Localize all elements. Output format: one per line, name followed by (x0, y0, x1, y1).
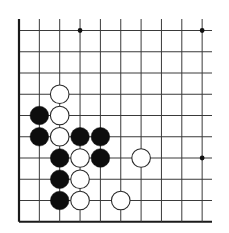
black-stone[interactable] (50, 149, 69, 168)
board-grid (19, 19, 212, 222)
black-stone[interactable] (91, 149, 110, 168)
stones-layer (30, 85, 150, 210)
black-stone[interactable] (91, 127, 110, 146)
white-stone[interactable] (132, 149, 151, 168)
go-board (0, 0, 229, 233)
white-stone[interactable] (71, 191, 90, 210)
black-stone[interactable] (50, 191, 69, 210)
go-board-diagram (0, 0, 229, 233)
black-stone[interactable] (71, 127, 90, 146)
star-point-icon (78, 28, 83, 33)
white-stone[interactable] (71, 149, 90, 168)
black-stone[interactable] (30, 127, 49, 146)
star-point-icon (200, 28, 205, 33)
white-stone[interactable] (50, 85, 69, 104)
black-stone[interactable] (30, 106, 49, 125)
white-stone[interactable] (71, 170, 90, 189)
star-point-icon (200, 156, 205, 161)
white-stone[interactable] (50, 106, 69, 125)
white-stone[interactable] (50, 127, 69, 146)
black-stone[interactable] (50, 170, 69, 189)
white-stone[interactable] (111, 191, 130, 210)
